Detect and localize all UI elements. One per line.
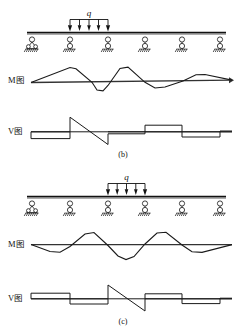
shear-label-c: V图 bbox=[8, 293, 23, 303]
distributed-load-b: q bbox=[68, 8, 110, 31]
support-roller-b-5 bbox=[175, 37, 187, 52]
load-arrowhead bbox=[106, 189, 110, 195]
beam-diagram-svg: q M图 V图 bbox=[0, 0, 246, 336]
panel-c: q M图 V图 bbox=[8, 172, 232, 326]
shear-curve-b bbox=[31, 117, 232, 144]
moment-baseline-b bbox=[31, 80, 232, 82]
support-roller-c-5 bbox=[175, 201, 187, 216]
beam-b bbox=[27, 32, 226, 34]
panel-caption-c: (c) bbox=[119, 317, 128, 326]
panel-caption-b: (b) bbox=[118, 150, 128, 159]
support-roller-b-4 bbox=[138, 37, 150, 52]
supports-b bbox=[24, 37, 225, 52]
distributed-load-c: q bbox=[106, 172, 147, 195]
load-arrowhead bbox=[143, 189, 147, 195]
moment-label-b: M图 bbox=[8, 75, 25, 85]
load-arrowhead bbox=[125, 189, 129, 195]
load-arrowhead bbox=[134, 189, 138, 195]
shear-diagram-c: V图 bbox=[8, 285, 232, 311]
shear-label-b: V图 bbox=[8, 126, 23, 136]
load-arrowhead bbox=[87, 25, 91, 31]
support-roller-b-2 bbox=[63, 37, 75, 52]
support-roller-b-3 bbox=[101, 37, 113, 52]
load-arrowhead bbox=[106, 25, 110, 31]
figure-root: q M图 V图 bbox=[0, 0, 246, 336]
support-pin-b-1 bbox=[24, 37, 38, 52]
moment-label-c: M图 bbox=[8, 239, 25, 249]
moment-diagram-c: M图 bbox=[8, 232, 232, 259]
supports-c bbox=[24, 201, 225, 216]
panel-b: q M图 V图 bbox=[8, 8, 234, 159]
moment-diagram-b: M图 bbox=[8, 67, 234, 91]
load-label-q-b: q bbox=[87, 8, 92, 18]
support-roller-c-3 bbox=[101, 201, 113, 216]
support-pin-c-1 bbox=[24, 201, 38, 216]
moment-curve-b bbox=[31, 67, 232, 91]
beam-c bbox=[27, 196, 226, 198]
support-roller-c-2 bbox=[63, 201, 75, 216]
moment-curve-c bbox=[31, 232, 232, 259]
load-arrowhead bbox=[68, 25, 72, 31]
shear-diagram-b: V图 bbox=[8, 117, 232, 144]
shear-curve-c bbox=[31, 285, 232, 311]
load-arrowhead bbox=[78, 25, 82, 31]
support-roller-c-4 bbox=[138, 201, 150, 216]
load-arrowhead bbox=[97, 25, 101, 31]
support-roller-b-6 bbox=[213, 37, 225, 52]
load-arrowhead bbox=[115, 189, 119, 195]
load-label-q-c: q bbox=[124, 172, 129, 182]
support-roller-c-6 bbox=[213, 201, 225, 216]
